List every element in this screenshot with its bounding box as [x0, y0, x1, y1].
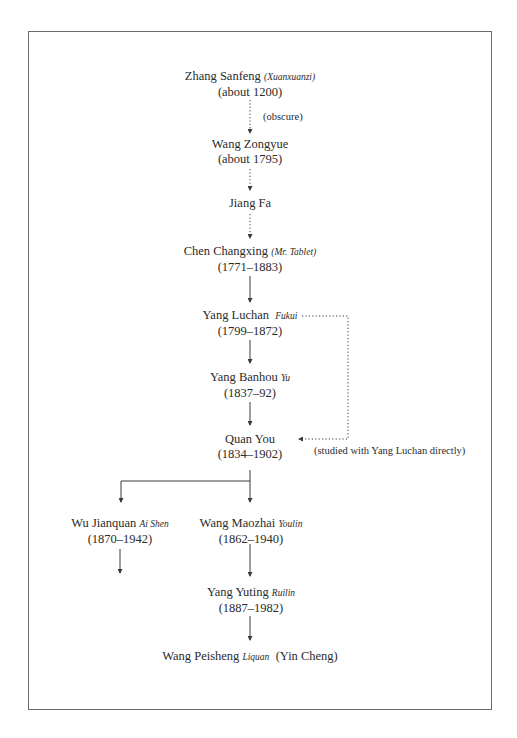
node-alt-name: Ruilin — [272, 588, 295, 598]
node-dates: (1837–92) — [210, 386, 290, 401]
connector-lines — [0, 0, 517, 738]
node-dates: (1799–1872) — [203, 324, 298, 339]
node-chen-changxing: Chen Changxing (Mr. Tablet) (1771–1883) — [184, 244, 317, 275]
node-alt-name: Youlin — [278, 519, 302, 529]
node-wu-jianquan: Wu Jianquan Ai Shen (1870–1942) — [71, 516, 169, 547]
node-quan-you: Quan You (1834–1902) — [218, 432, 283, 462]
node-name: Zhang Sanfeng — [185, 69, 261, 83]
node-alt-name: (Mr. Tablet) — [271, 247, 316, 257]
node-name: Yang Yuting — [207, 585, 269, 599]
node-alt-name: Ai Shen — [139, 519, 168, 529]
node-dates: (1870–1942) — [71, 532, 169, 547]
node-wang-peisheng: Wang Peisheng Liquan (Yin Cheng) — [162, 649, 338, 665]
node-name: Wang Maozhai — [200, 516, 276, 530]
note-direct-study: (studied with Yang Luchan directly) — [314, 445, 465, 456]
node-alt-name: Yu — [281, 373, 290, 383]
node-alt-name: Fukui — [275, 311, 297, 321]
node-dates: (1887–1982) — [207, 601, 295, 616]
edge-yang-luchan-quan-you-direct — [299, 316, 348, 439]
node-name: Quan You — [218, 432, 283, 447]
node-name: Chen Changxing — [184, 244, 268, 258]
node-yang-banhou: Yang Banhou Yu (1837–92) — [210, 370, 290, 401]
node-wang-maozhai: Wang Maozhai Youlin (1862–1940) — [200, 516, 303, 547]
node-dates: (about 1795) — [212, 152, 288, 167]
node-dates: (1862–1940) — [200, 532, 303, 547]
node-name: Yang Banhou — [210, 370, 278, 384]
node-dates: (1771–1883) — [184, 260, 317, 275]
node-wang-zongyue: Wang Zongyue (about 1795) — [212, 137, 288, 167]
node-suffix: (Yin Cheng) — [276, 649, 338, 663]
node-dates: (1834–1902) — [218, 447, 283, 462]
note-obscure: (obscure) — [263, 111, 303, 122]
node-name: Wu Jianquan — [71, 516, 136, 530]
node-jiang-fa: Jiang Fa — [229, 196, 271, 211]
node-zhang-sanfeng: Zhang Sanfeng (Xuanxuanzi) (about 1200) — [185, 69, 315, 100]
node-alt-name: Liquan — [242, 652, 269, 662]
node-yang-luchan: Yang Luchan Fukui (1799–1872) — [203, 308, 298, 339]
node-alt-name: (Xuanxuanzi) — [264, 72, 315, 82]
node-name: Jiang Fa — [229, 196, 271, 211]
node-name: Yang Luchan — [203, 308, 269, 322]
node-dates: (about 1200) — [185, 85, 315, 100]
node-yang-yuting: Yang Yuting Ruilin (1887–1982) — [207, 585, 295, 616]
node-name: Wang Peisheng — [162, 649, 239, 663]
node-name: Wang Zongyue — [212, 137, 288, 152]
